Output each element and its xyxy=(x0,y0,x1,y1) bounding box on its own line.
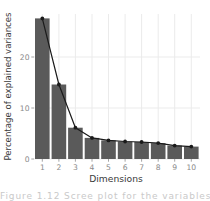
x-ticklabel-5: 5 xyxy=(106,163,111,172)
figure-caption: Figure 1.12 Scree plot for the variables xyxy=(0,192,210,201)
point-dim-4 xyxy=(90,136,94,140)
y-axis-ticks xyxy=(31,57,34,159)
x-ticklabel-8: 8 xyxy=(156,163,161,172)
x-ticklabel-3: 3 xyxy=(73,163,78,172)
point-dim-1 xyxy=(40,17,44,21)
scree-plot-svg: 0 10 20 1 2 3 4 xyxy=(0,0,210,186)
bar-dim-3 xyxy=(68,128,83,159)
scree-plot-figure: 0 10 20 1 2 3 4 xyxy=(0,0,210,201)
y-ticklabel-0: 0 xyxy=(25,155,30,164)
figure-caption-text: Figure 1.12 Scree plot for the variables xyxy=(0,192,210,201)
chart-plot-area: 0 10 20 1 2 3 4 xyxy=(0,0,210,186)
bar-dim-8 xyxy=(151,143,166,159)
point-dim-8 xyxy=(156,141,160,145)
x-axis-title: Dimensions xyxy=(89,173,143,184)
x-ticklabel-9: 9 xyxy=(172,163,177,172)
bar-dim-5 xyxy=(101,140,116,159)
x-axis-tick-labels: 1 2 3 4 5 6 7 8 9 10 xyxy=(40,163,196,172)
point-dim-2 xyxy=(57,83,61,87)
x-ticklabel-1: 1 xyxy=(40,163,45,172)
bar-dim-2 xyxy=(52,85,67,160)
bar-dim-6 xyxy=(118,142,133,160)
point-dim-5 xyxy=(107,139,111,143)
y-ticklabel-10: 10 xyxy=(20,104,30,113)
point-dim-3 xyxy=(74,126,78,130)
x-ticklabel-10: 10 xyxy=(186,163,196,172)
x-ticklabel-6: 6 xyxy=(123,163,128,172)
bar-dim-4 xyxy=(85,138,100,159)
point-dim-9 xyxy=(173,144,177,148)
x-ticklabel-7: 7 xyxy=(139,163,144,172)
y-ticklabel-20: 20 xyxy=(20,53,30,62)
y-axis-title: Percentage of explained variances xyxy=(3,12,13,161)
point-dim-6 xyxy=(123,140,127,144)
y-axis-tick-labels: 0 10 20 xyxy=(20,53,30,164)
x-ticklabel-4: 4 xyxy=(90,163,95,172)
bar-dim-9 xyxy=(167,146,182,159)
x-ticklabel-2: 2 xyxy=(56,163,61,172)
bar-dim-7 xyxy=(134,142,149,159)
point-dim-10 xyxy=(189,145,193,149)
point-dim-7 xyxy=(140,140,144,144)
